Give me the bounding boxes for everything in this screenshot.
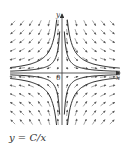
field-arrow bbox=[19, 85, 25, 87]
field-arrow bbox=[48, 38, 50, 44]
field-arrow bbox=[66, 84, 67, 88]
field-arrow bbox=[84, 119, 87, 124]
field-arrow bbox=[91, 77, 97, 78]
field-arrow bbox=[11, 21, 15, 25]
solution-curve bbox=[10, 32, 60, 72]
field-arrow bbox=[39, 119, 41, 124]
field-arrow bbox=[11, 120, 15, 124]
field-arrow bbox=[58, 29, 59, 35]
field-arrow bbox=[110, 21, 114, 25]
field-arrow bbox=[84, 29, 87, 34]
field-arrow bbox=[67, 101, 68, 107]
solution-curve bbox=[10, 20, 57, 68]
field-arrow bbox=[47, 76, 51, 77]
solution-curve bbox=[67, 78, 120, 125]
field-arrow bbox=[11, 111, 16, 115]
solution-curve bbox=[67, 20, 120, 69]
field-arrow bbox=[28, 85, 34, 87]
field-arrow bbox=[19, 77, 25, 78]
field-arrow bbox=[29, 111, 33, 116]
field-arrow bbox=[11, 30, 16, 34]
field-arrow bbox=[10, 85, 16, 87]
field-arrow bbox=[92, 119, 95, 124]
field-arrow bbox=[92, 102, 96, 106]
field-arrow bbox=[29, 20, 32, 25]
field-arrow bbox=[109, 94, 114, 96]
field-arrow bbox=[83, 102, 87, 107]
field-arrow bbox=[91, 85, 97, 87]
field-arrow bbox=[84, 110, 87, 115]
field-arrow bbox=[92, 30, 96, 35]
field-arrow bbox=[39, 20, 41, 25]
field-arrow bbox=[92, 20, 95, 25]
field-arrow bbox=[101, 39, 106, 43]
field-arrow bbox=[75, 20, 77, 26]
field-arrow bbox=[19, 68, 25, 69]
field-arrow bbox=[10, 39, 15, 42]
field-arrow bbox=[74, 84, 77, 87]
field-arrow bbox=[101, 111, 105, 115]
field-arrow bbox=[57, 67, 59, 69]
field-arrow bbox=[91, 58, 96, 60]
field-arrow bbox=[74, 57, 77, 60]
field-arrow bbox=[110, 30, 115, 34]
field-arrow bbox=[57, 57, 58, 61]
field-arrow bbox=[100, 49, 105, 52]
field-arrow bbox=[38, 39, 41, 44]
field-arrow bbox=[48, 29, 50, 35]
field-arrow bbox=[29, 93, 34, 96]
field-arrow bbox=[38, 102, 41, 107]
solution-curve bbox=[64, 75, 120, 115]
field-arrow bbox=[20, 102, 25, 106]
field-arrow bbox=[10, 94, 15, 96]
field-arrow bbox=[19, 58, 25, 60]
field-arrow bbox=[28, 58, 33, 60]
field-arrow bbox=[28, 68, 34, 69]
field-arrow bbox=[19, 94, 24, 97]
field-arrow bbox=[48, 20, 50, 26]
x-axis-label: x bbox=[116, 74, 120, 82]
field-arrow bbox=[75, 119, 77, 125]
field-arrow bbox=[92, 111, 96, 116]
field-arrow bbox=[110, 120, 114, 124]
field-arrow bbox=[67, 110, 68, 116]
field-arrow bbox=[10, 58, 16, 60]
field-arrow bbox=[109, 58, 115, 60]
field-arrow bbox=[84, 20, 87, 25]
field-arrow bbox=[83, 39, 87, 44]
field-arrow bbox=[100, 94, 105, 97]
solution-curve bbox=[64, 32, 120, 72]
field-arrow bbox=[47, 57, 50, 60]
field-arrow bbox=[75, 110, 77, 116]
field-arrow bbox=[19, 49, 24, 52]
field-arrow bbox=[100, 58, 106, 60]
field-arrow bbox=[20, 21, 24, 26]
solution-curve bbox=[10, 75, 60, 115]
field-arrow bbox=[10, 102, 15, 105]
field-arrow bbox=[83, 93, 87, 97]
field-arrow bbox=[75, 38, 77, 43]
field-arrow bbox=[67, 29, 68, 35]
field-arrow bbox=[29, 39, 33, 43]
field-arrow bbox=[67, 38, 68, 44]
field-arrow bbox=[29, 119, 32, 124]
origin-label: 0 bbox=[56, 74, 60, 82]
field-arrow bbox=[10, 49, 15, 52]
field-arrow bbox=[48, 101, 50, 107]
field-arrow bbox=[91, 68, 97, 69]
figure-caption: y = C/x bbox=[9, 132, 46, 143]
direction-field-arrows bbox=[10, 20, 115, 125]
field-arrow bbox=[110, 111, 115, 115]
field-arrow bbox=[20, 30, 24, 34]
field-arrow bbox=[100, 68, 106, 69]
field-arrow bbox=[38, 93, 42, 97]
field-arrow bbox=[75, 101, 77, 106]
field-arrow bbox=[29, 48, 34, 52]
y-axis-label: y bbox=[56, 11, 60, 19]
field-arrow bbox=[20, 120, 24, 125]
solution-curves bbox=[10, 20, 120, 125]
field-arrow bbox=[66, 76, 68, 78]
solution-curve bbox=[10, 79, 57, 126]
field-arrow bbox=[20, 39, 25, 43]
field-arrow bbox=[57, 84, 58, 88]
